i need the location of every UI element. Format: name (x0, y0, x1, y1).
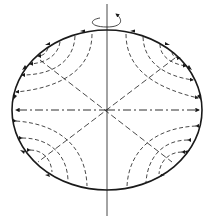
circulation-diagram (0, 0, 211, 220)
rotation-arrow-icon (92, 14, 120, 27)
